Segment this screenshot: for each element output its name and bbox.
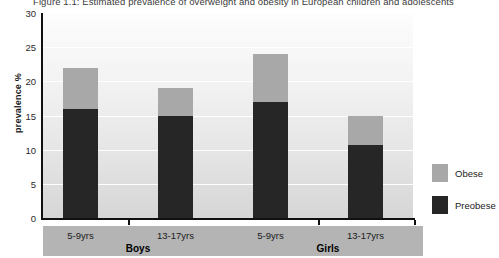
bar-segment-preobese (63, 109, 98, 218)
table-row (348, 116, 383, 218)
y-tick-label-0: 0 (12, 213, 36, 224)
gridline-25 (43, 47, 413, 48)
y-tick-label-15: 15 (12, 110, 36, 121)
y-axis-label: prevalence % (13, 58, 23, 148)
plot-area (43, 13, 413, 218)
y-tick-label-25: 25 (12, 42, 36, 53)
y-tick-label-30: 30 (12, 8, 36, 19)
bar-segment-preobese (158, 116, 193, 219)
group-label-girls: Girls (233, 243, 423, 254)
bar-segment-obese (63, 68, 98, 109)
table-row (158, 88, 193, 218)
bar-segment-obese (253, 54, 288, 102)
figure-caption: Figure 1.1: Estimated prevalence of over… (33, 0, 499, 7)
x-tickmark (414, 220, 416, 225)
bar-segment-preobese (253, 102, 288, 218)
x-tick-label: 5-9yrs (51, 230, 111, 241)
x-tickmark (128, 220, 130, 225)
legend-label: Obese (455, 168, 483, 179)
legend-item-obese[interactable]: Obese (432, 164, 496, 182)
table-row (63, 68, 98, 218)
bar-segment-obese (158, 88, 193, 115)
y-tick-label-5: 5 (12, 178, 36, 189)
bar-segment-obese (348, 116, 383, 145)
legend: ObesePreobese (432, 164, 496, 228)
bar-segment-preobese (348, 145, 383, 218)
y-tick-label-20: 20 (12, 76, 36, 87)
x-tick-label: 5-9yrs (241, 230, 301, 241)
legend-swatch-obese (432, 164, 448, 182)
x-tick-label: 13-17yrs (146, 230, 206, 241)
gridline-30 (43, 13, 413, 14)
legend-item-preobese[interactable]: Preobese (432, 196, 496, 214)
table-row (253, 54, 288, 218)
legend-label: Preobese (455, 200, 496, 211)
x-axis-line (41, 218, 415, 220)
group-label-boys: Boys (43, 243, 233, 254)
y-tick-label-10: 10 (12, 144, 36, 155)
legend-swatch-preobese (432, 196, 448, 214)
gridline-20 (43, 81, 413, 82)
x-tick-label: 13-17yrs (336, 230, 396, 241)
x-tickmark (318, 220, 320, 225)
